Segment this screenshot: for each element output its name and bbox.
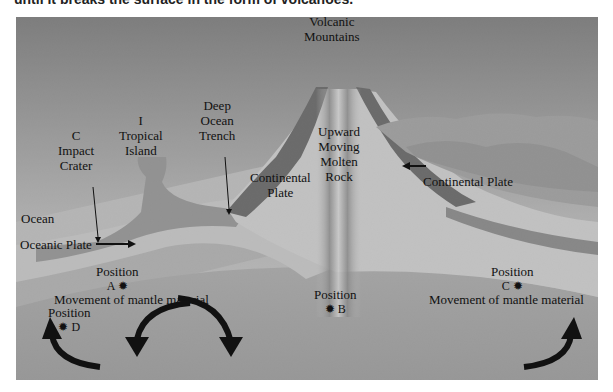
tectonics-diagram: Volcanic Mountains Deep Ocean Trench I T… — [16, 17, 598, 380]
label-mantle-right: Movement of mantle material — [429, 292, 584, 307]
label-volcanic-mountains: Volcanic Mountains — [304, 17, 360, 44]
label-line: Deep — [199, 98, 235, 113]
label-continental-plate-left: Continental Plate — [250, 170, 311, 200]
label-line: Mountains — [304, 29, 360, 44]
position-label: Position — [96, 264, 139, 279]
label-line: Volcanic — [304, 17, 360, 29]
position-b: Position ✹ B — [314, 287, 357, 317]
position-d: Position ✹ D — [48, 305, 91, 335]
label-oceanic-plate: Oceanic Plate — [20, 237, 92, 252]
label-molten-rock: Upward Moving Molten Rock — [318, 124, 360, 184]
label-line: Rock — [318, 169, 360, 184]
label-line: C — [58, 128, 94, 143]
label-line: Island — [119, 143, 163, 158]
position-a: Position A ✹ — [96, 264, 139, 294]
label-ocean: Ocean — [21, 211, 54, 226]
label-continental-plate-right: Continental Plate — [423, 174, 513, 189]
label-line: Tropical — [119, 128, 163, 143]
label-line: Trench — [199, 128, 235, 143]
position-label: Position — [491, 264, 534, 279]
position-label: Position — [314, 287, 357, 302]
caption-text: until it breaks the surface in the form … — [14, 0, 353, 7]
label-line: Continental — [250, 170, 311, 185]
star-icon: ✹ D — [48, 320, 91, 335]
label-line: Moving — [318, 139, 360, 154]
label-impact-crater: C Impact Crater — [58, 128, 94, 173]
star-icon: ✹ B — [314, 302, 357, 317]
position-c: Position C ✹ — [491, 264, 534, 294]
position-label: Position — [48, 305, 91, 320]
label-line: Plate — [250, 185, 311, 200]
label-line: I — [119, 113, 163, 128]
label-line: Crater — [58, 158, 94, 173]
label-line: Ocean — [199, 113, 235, 128]
label-line: Impact — [58, 143, 94, 158]
label-deep-ocean-trench: Deep Ocean Trench — [199, 98, 235, 143]
label-line: Molten — [318, 154, 360, 169]
label-line: Upward — [318, 124, 360, 139]
label-tropical-island: I Tropical Island — [119, 113, 163, 158]
